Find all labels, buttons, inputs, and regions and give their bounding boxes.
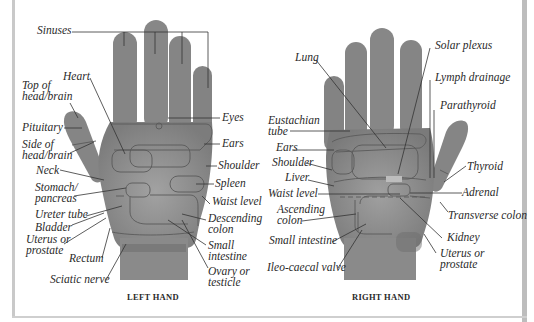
label-liver: Liver xyxy=(285,172,309,183)
label-ascending-colon: Ascending colon xyxy=(277,204,325,226)
label-ileo-caecal-valve: Ileo-caecal valve xyxy=(267,262,346,273)
label-solar-plexus: Solar plexus xyxy=(435,40,492,51)
label-lung: Lung xyxy=(295,52,319,63)
label-ureter-tube: Ureter tube xyxy=(35,209,88,220)
label-ovary-testicle: Ovary or testicle xyxy=(208,266,250,288)
label-ears-right: Ears xyxy=(276,142,298,153)
label-shoulder-left: Shoulder xyxy=(218,160,260,171)
label-adrenal: Adrenal xyxy=(462,187,499,198)
label-eyes: Eyes xyxy=(222,112,244,123)
label-spleen: Spleen xyxy=(215,178,246,189)
label-parathyroid: Parathyroid xyxy=(440,100,496,111)
label-kidney: Kidney xyxy=(447,232,480,243)
label-waist-level-right: Waist level xyxy=(268,188,318,199)
label-uterus-prostate-right: Uterus or prostate xyxy=(440,248,484,270)
label-small-intestine-right: Small intestine xyxy=(269,235,337,246)
label-rectum: Rectum xyxy=(69,253,103,264)
book-page: Sinuses Heart Top of head/brain Pituitar… xyxy=(0,0,534,322)
label-transverse-colon: Transverse colon xyxy=(448,210,527,221)
caption-left-hand: LEFT HAND xyxy=(127,292,179,302)
label-small-intestine-left: Small intestine xyxy=(208,240,247,262)
label-uterus-prostate-left: Uterus or prostate xyxy=(26,234,70,256)
label-thyroid: Thyroid xyxy=(467,161,503,172)
label-top-of-head: Top of head/brain xyxy=(22,80,72,102)
label-side-of-head: Side of head/brain xyxy=(22,139,72,161)
label-lymph-drainage: Lymph drainage xyxy=(435,72,510,83)
label-waist-level-left: Waist level xyxy=(212,196,262,207)
caption-right-hand: RIGHT HAND xyxy=(352,292,410,302)
label-neck: Neck xyxy=(36,165,59,176)
label-sciatic-nerve: Sciatic nerve xyxy=(50,274,110,285)
label-eustachian-tube: Eustachian tube xyxy=(268,115,320,137)
label-sinuses: Sinuses xyxy=(37,25,72,36)
label-descending-colon: Descending colon xyxy=(208,213,262,235)
label-pituitary: Pituitary xyxy=(22,122,63,133)
label-stomach-pancreas: Stomach/ pancreas xyxy=(35,182,78,204)
label-ears-left: Ears xyxy=(222,138,244,149)
left-hand-illustration xyxy=(64,20,213,280)
label-bladder: Bladder xyxy=(35,222,72,233)
label-shoulder-right: Shoulder xyxy=(272,157,314,168)
